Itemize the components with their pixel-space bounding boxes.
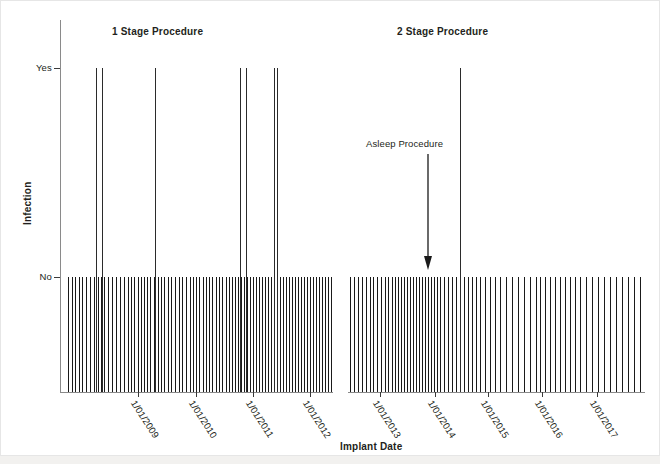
spike-no (298, 277, 299, 392)
spike-no (480, 277, 481, 392)
x-tick-label-2016: 1/01/2016 (533, 398, 566, 440)
spike-no (295, 277, 296, 392)
spike-no (555, 277, 556, 392)
spike-no (622, 277, 623, 392)
spike-no (186, 277, 187, 392)
spike-no (431, 277, 432, 392)
spike-no (171, 277, 172, 392)
spike-no (292, 277, 293, 392)
spike-no (147, 277, 148, 392)
spike-no (495, 277, 496, 392)
spike-no (472, 277, 473, 392)
spike-no (592, 277, 593, 392)
spike-no (94, 277, 95, 392)
spike-no (128, 277, 129, 392)
spike-no (331, 277, 332, 392)
spike-no (452, 277, 453, 392)
spike-no (150, 277, 151, 392)
x-tick-2017 (597, 392, 598, 397)
spike-no (98, 277, 99, 392)
spike-no (398, 277, 399, 392)
spike-no (358, 277, 359, 392)
spike-no (271, 277, 272, 392)
x-tick-label-2013: 1/01/2013 (371, 398, 404, 440)
spike-no (328, 277, 329, 392)
spike-no (203, 277, 204, 392)
x-tick-label-2010: 1/01/2010 (187, 398, 220, 440)
spike-no (440, 277, 441, 392)
spike-no (250, 277, 251, 392)
spike-no (416, 277, 417, 392)
spike-no (247, 277, 248, 392)
spike-no (229, 277, 230, 392)
spike-no (381, 277, 382, 392)
x-axis-title: Implant Date (340, 441, 402, 452)
spike-no (586, 277, 587, 392)
spike-no (256, 277, 257, 392)
spike-no (464, 277, 465, 392)
spike-no (168, 277, 169, 392)
spike-no (540, 277, 541, 392)
spike-no (388, 277, 389, 392)
spike-no (241, 277, 242, 392)
spike-no (319, 277, 320, 392)
spike-no (413, 277, 414, 392)
spike-no (570, 277, 571, 392)
spike-no (425, 277, 426, 392)
spike-no (434, 277, 435, 392)
spike-no (199, 277, 200, 392)
spike-no (116, 277, 117, 392)
x-tick-2010 (196, 392, 197, 397)
spike-no (310, 277, 311, 392)
x-tick-2012 (310, 392, 311, 397)
spike-no (354, 277, 355, 392)
x-tick-2013 (380, 392, 381, 397)
spike-no (476, 277, 477, 392)
x-tick-label-2012: 1/01/2012 (301, 398, 334, 440)
x-tick-2016 (542, 392, 543, 397)
spike-no (120, 277, 121, 392)
spike-no (72, 277, 73, 392)
figure-bottom-strip (0, 456, 660, 464)
x-tick-2015 (488, 392, 489, 397)
spike-no (385, 277, 386, 392)
spike-no (131, 277, 132, 392)
chart-figure: Infection Implant Date 1 Stage Procedure… (0, 0, 660, 464)
spike-no (301, 277, 302, 392)
spike-no (604, 277, 605, 392)
spike-no (366, 277, 367, 392)
spike-no (392, 277, 393, 392)
spike-no (428, 277, 429, 392)
x-tick-2014 (435, 392, 436, 397)
spike-no (422, 277, 423, 392)
spike-no (179, 277, 180, 392)
spike-no (373, 277, 374, 392)
spike-no (161, 277, 162, 392)
spike-no (634, 277, 635, 392)
spike-yes (274, 68, 275, 392)
spike-no (216, 277, 217, 392)
spike-no (193, 277, 194, 392)
spike-no (444, 277, 445, 392)
spike-no (253, 277, 254, 392)
spike-no (560, 277, 561, 392)
spike-yes (240, 68, 241, 392)
spike-no (640, 277, 641, 392)
spike-no (518, 277, 519, 392)
spike-no (610, 277, 611, 392)
spike-no (512, 277, 513, 392)
spike-no (545, 277, 546, 392)
spike-no (164, 277, 165, 392)
spike-no (456, 277, 457, 392)
spike-yes (155, 68, 156, 392)
spike-no (86, 277, 87, 392)
spike-no (244, 277, 245, 392)
x-tick-2009 (138, 392, 139, 397)
spike-no (362, 277, 363, 392)
spike-no (144, 277, 145, 392)
spike-no (377, 277, 378, 392)
spike-no (175, 277, 176, 392)
spike-no (407, 277, 408, 392)
spike-no (316, 277, 317, 392)
spike-no (212, 277, 213, 392)
